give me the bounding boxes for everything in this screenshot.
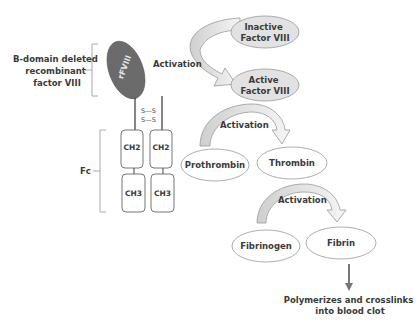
activation-label-1: Activation	[153, 59, 202, 69]
svg-text:Prothrombin: Prothrombin	[185, 160, 245, 170]
svg-text:Fibrinogen: Fibrinogen	[240, 241, 292, 251]
svg-text:CH2: CH2	[124, 143, 141, 152]
bdomain-label: B-domain deleted recombinant factor VIII	[13, 54, 101, 88]
bdomain-bracket	[92, 44, 98, 96]
rfviii-domain: rFVIII	[100, 36, 152, 104]
disulfide-bond-1: S—S	[141, 107, 156, 115]
svg-text:Fibrin: Fibrin	[327, 238, 355, 248]
fc-bracket	[100, 130, 106, 212]
disulfide-bond-2: S—S	[141, 116, 156, 124]
active-factor-viii: Active Factor VIII	[231, 69, 299, 101]
activation-label-3: Activation	[278, 195, 327, 205]
prothrombin: Prothrombin	[181, 149, 249, 181]
svg-text:CH3: CH3	[154, 189, 171, 198]
ch3-left: CH3	[122, 174, 145, 212]
fibrin: Fibrin	[306, 227, 376, 259]
down-arrow-icon	[345, 264, 353, 291]
svg-text:CH2: CH2	[153, 143, 170, 152]
svg-text:Thrombin: Thrombin	[269, 158, 315, 168]
fc-label: Fc	[80, 166, 91, 176]
activation-label-2: Activation	[220, 120, 269, 130]
svg-text:Inactive Factor VIII: Inactive Factor VIII	[240, 22, 289, 43]
inactive-factor-viii: Inactive Factor VIII	[231, 16, 299, 48]
ch3-right: CH3	[151, 174, 174, 212]
coagulation-diagram: B-domain deleted recombinant factor VIII…	[0, 0, 419, 326]
ch2-right: CH2	[150, 130, 172, 168]
ch2-left: CH2	[121, 130, 143, 168]
outcome-text: Polymerizes and crosslinks into blood cl…	[284, 295, 417, 316]
fibrinogen: Fibrinogen	[232, 230, 300, 262]
svg-text:CH3: CH3	[125, 189, 142, 198]
thrombin: Thrombin	[257, 147, 327, 179]
